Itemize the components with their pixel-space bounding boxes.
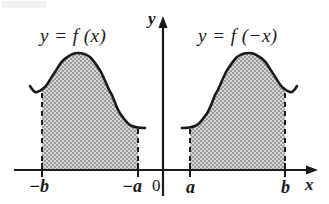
figure-canvas: y = f (x) y = f (−x) −b −a 0 a b x y: [0, 0, 329, 204]
curve-label-left: y = f (x): [40, 26, 106, 45]
y-axis-label: y: [148, 10, 156, 27]
tick-label-a: a: [186, 178, 195, 196]
tick-label-b: b: [281, 178, 290, 196]
curve-label-right: y = f (−x): [198, 26, 278, 45]
shaded-region-right: [182, 53, 297, 170]
origin-label: 0: [152, 177, 161, 194]
x-axis-label: x: [305, 176, 314, 193]
tick-label-neg-a: −a: [122, 177, 142, 195]
tick-label-neg-b: −b: [29, 177, 49, 195]
shaded-region-left: [30, 53, 145, 170]
